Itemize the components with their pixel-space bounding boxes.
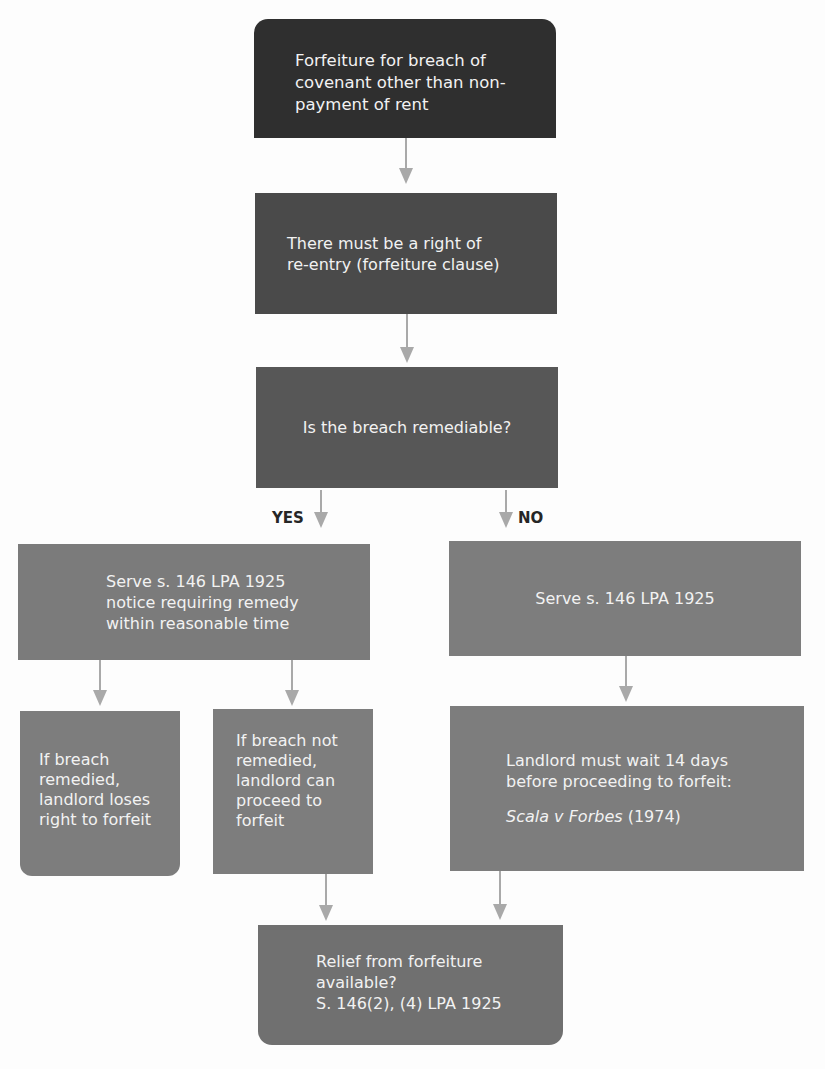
notice-remedy-line-2: notice requiring remedy bbox=[106, 592, 299, 613]
arrow-down-icon bbox=[314, 490, 328, 528]
notice-remedy-line-1: Serve s. 146 LPA 1925 bbox=[106, 571, 285, 592]
requirement-box: There must be a right of re-entry (forfe… bbox=[255, 193, 557, 314]
arrow-down-icon bbox=[319, 874, 333, 922]
title-box: Forfeiture for breach of covenant other … bbox=[254, 19, 556, 138]
arrow-down-icon bbox=[285, 660, 299, 707]
breach-remedied-box: If breach remedied, landlord loses right… bbox=[20, 711, 180, 876]
case-name: Scala v Forbes bbox=[506, 807, 623, 826]
wait-line-1: Landlord must wait 14 days bbox=[506, 750, 728, 771]
breach-not-remedied-box: If breach not remedied, landlord can pro… bbox=[213, 709, 373, 874]
notice-box: Serve s. 146 LPA 1925 bbox=[449, 541, 801, 656]
remedied-line-1: If breach bbox=[39, 750, 109, 770]
relief-line-1: Relief from forfeiture bbox=[316, 951, 482, 972]
title-line-3: payment of rent bbox=[295, 94, 428, 116]
yes-label: YES bbox=[272, 509, 304, 527]
question-text: Is the breach remediable? bbox=[303, 417, 511, 438]
not-remedied-line-5: forfeit bbox=[236, 811, 284, 831]
arrow-down-icon bbox=[499, 490, 513, 528]
not-remedied-line-3: landlord can bbox=[236, 771, 335, 791]
arrow-down-icon bbox=[400, 314, 414, 364]
notice-text: Serve s. 146 LPA 1925 bbox=[535, 588, 714, 609]
requirement-line-2: re-entry (forfeiture clause) bbox=[287, 254, 500, 275]
not-remedied-line-4: proceed to bbox=[236, 791, 322, 811]
arrow-down-icon bbox=[399, 138, 413, 185]
case-year: (1974) bbox=[623, 807, 681, 826]
no-label: NO bbox=[518, 509, 543, 527]
remedied-line-4: right to forfeit bbox=[39, 810, 151, 830]
not-remedied-line-1: If breach not bbox=[236, 731, 338, 751]
title-line-1: Forfeiture for breach of bbox=[295, 50, 486, 72]
requirement-line-1: There must be a right of bbox=[287, 233, 481, 254]
relief-line-2: available? bbox=[316, 972, 397, 993]
arrow-down-icon bbox=[93, 660, 107, 707]
wait-period-box: Landlord must wait 14 days before procee… bbox=[450, 706, 804, 871]
case-citation: Scala v Forbes (1974) bbox=[506, 806, 681, 827]
wait-line-2: before proceeding to forfeit: bbox=[506, 771, 732, 792]
arrow-down-icon bbox=[619, 656, 633, 703]
notice-remedy-box: Serve s. 146 LPA 1925 notice requiring r… bbox=[18, 544, 370, 660]
not-remedied-line-2: remedied, bbox=[236, 751, 317, 771]
remedied-line-2: remedied, bbox=[39, 770, 120, 790]
remedied-line-3: landlord loses bbox=[39, 790, 150, 810]
arrow-down-icon bbox=[493, 871, 507, 921]
relief-box: Relief from forfeiture available? S. 146… bbox=[258, 925, 563, 1045]
notice-remedy-line-3: within reasonable time bbox=[106, 613, 289, 634]
relief-line-3: S. 146(2), (4) LPA 1925 bbox=[316, 993, 502, 1014]
question-box: Is the breach remediable? bbox=[256, 367, 558, 488]
title-line-2: covenant other than non- bbox=[295, 72, 506, 94]
